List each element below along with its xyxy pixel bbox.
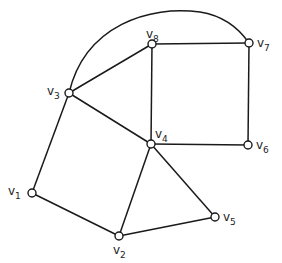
vertex-label-v2: v2 [113, 243, 126, 260]
edge-v3-v7 [69, 11, 249, 93]
edge-v4-v6 [151, 144, 248, 145]
edge-v4-v5 [151, 144, 215, 217]
vertex-label-v7: v7 [257, 36, 270, 53]
vertex-label-v1: v1 [8, 184, 21, 201]
vertex-label-v6: v6 [256, 138, 269, 155]
edge-v3-v8 [69, 44, 152, 93]
vertex-v7 [245, 39, 253, 47]
vertices-group [28, 39, 253, 240]
edges-group [32, 11, 249, 236]
vertex-v1 [28, 189, 36, 197]
edge-v2-v5 [119, 217, 215, 236]
vertex-label-v8: v8 [146, 27, 159, 44]
vertex-v3 [65, 89, 73, 97]
edge-v4-v8 [151, 44, 152, 144]
vertex-v5 [211, 213, 219, 221]
vertex-label-v4: v4 [155, 127, 168, 144]
vertex-label-v5: v5 [223, 210, 236, 227]
edge-v3-v4 [69, 93, 151, 144]
edge-v1-v3 [32, 93, 69, 193]
vertex-v2 [115, 232, 123, 240]
vertex-v6 [244, 141, 252, 149]
edge-v8-v7 [152, 43, 249, 44]
labels-group: v1v2v3v4v5v6v7v8 [8, 27, 270, 260]
graph-diagram: v1v2v3v4v5v6v7v8 [0, 0, 282, 263]
edge-v1-v2 [32, 193, 119, 236]
vertex-label-v3: v3 [47, 84, 60, 101]
edge-v2-v4 [119, 144, 151, 236]
edge-v7-v6 [248, 43, 249, 145]
vertex-v4 [147, 140, 155, 148]
